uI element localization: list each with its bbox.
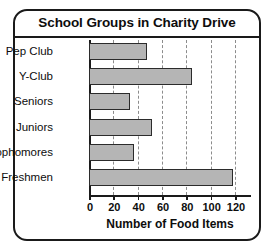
x-axis-tick-label: 20 (108, 201, 120, 213)
bar-row (89, 144, 235, 161)
x-axis-tick-label: 120 (227, 201, 245, 213)
x-axis-tick-label: 100 (202, 201, 220, 213)
x-axis-tick (211, 195, 213, 200)
bar-row (89, 93, 235, 110)
bar (89, 169, 233, 186)
x-axis-title: Number of Food Items (89, 217, 251, 231)
x-axis-tick (235, 195, 237, 200)
bar-row (89, 68, 235, 85)
bar (89, 43, 147, 60)
category-label: Sophomores (0, 144, 53, 161)
chart-title: School Groups in Charity Drive (15, 15, 259, 30)
bar (89, 68, 192, 85)
chart-card: School Groups in Charity Drive 020406080… (13, 9, 261, 241)
bar-row (89, 43, 235, 60)
category-label: Y-Club (19, 68, 53, 85)
bar-row (89, 119, 235, 136)
category-label: Juniors (16, 119, 53, 136)
x-axis-tick (89, 195, 91, 200)
title-divider (15, 36, 259, 38)
bar (89, 119, 152, 136)
x-axis-tick-label: 0 (87, 201, 93, 213)
bar (89, 144, 134, 161)
category-label: Freshmen (1, 169, 53, 186)
x-axis-tick (138, 195, 140, 200)
x-axis-tick (186, 195, 188, 200)
x-axis-tick-label: 60 (157, 201, 169, 213)
category-label: Seniors (14, 93, 53, 110)
bar (89, 93, 130, 110)
x-axis-tick (113, 195, 115, 200)
x-axis-tick-label: 80 (181, 201, 193, 213)
category-label: Pep Club (6, 43, 53, 60)
bar-row (89, 169, 235, 186)
x-axis-tick (162, 195, 164, 200)
gridline (235, 40, 236, 195)
plot-area (89, 40, 235, 195)
x-axis-tick-label: 40 (133, 201, 145, 213)
